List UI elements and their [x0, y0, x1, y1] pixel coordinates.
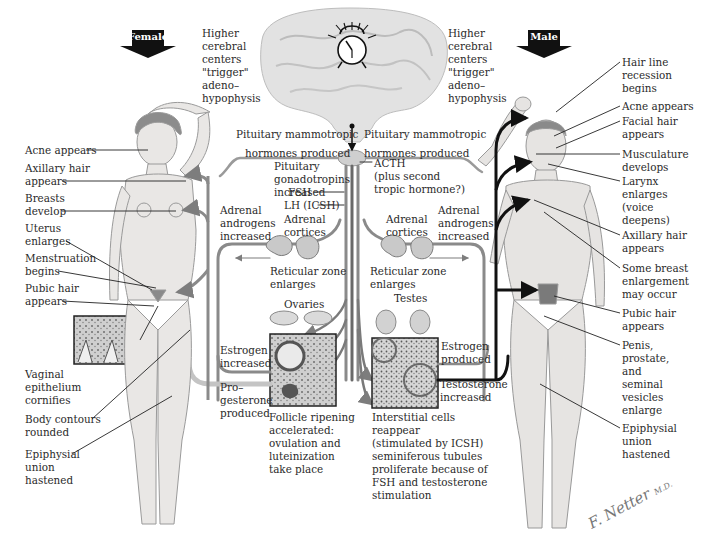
label-line: Pubic hair [622, 307, 676, 320]
label-line: Pro– [220, 381, 273, 394]
label-line: ACTH [374, 157, 465, 170]
label-line: appears [622, 128, 678, 141]
label-line: cortices [386, 226, 428, 239]
mammotropic-left-label: Pituitary mammotropic hormones produced [236, 125, 358, 163]
male-label-larynx: Larynx enlarges (voice deepens) [622, 175, 670, 227]
label-line: develop [25, 205, 66, 218]
adrenal-androgens-left-label: Adrenal androgens increased [220, 204, 276, 243]
label-line: produced [441, 353, 491, 366]
label-line: luteinization [269, 450, 355, 463]
puberty-diagram: Female Male Higher cerebral centers "tri… [0, 0, 702, 548]
label-line: (stimulated by ICSH) [372, 437, 488, 450]
label-line: Adrenal [284, 213, 326, 226]
label-line: hypophysis [448, 92, 507, 105]
testes-label: Testes [394, 292, 427, 305]
label-line: centers [202, 53, 261, 66]
adrenal-androgens-right-label: Adrenal androgens increased [438, 204, 494, 243]
label-line: hastened [622, 448, 677, 461]
label-line: centers [448, 53, 507, 66]
male-label-acne: Acne appears [622, 100, 694, 113]
label-line: Larynx [622, 175, 670, 188]
label-line: stimulation [372, 489, 488, 502]
interstitial-cells-label: Interstitial cells reappear (stimulated … [372, 411, 488, 502]
cerebral-centers-left-label: Higher cerebral centers "trigger" adeno–… [202, 27, 261, 105]
male-label-musculature: Musculature develops [622, 148, 689, 174]
male-banner: Male [516, 30, 572, 60]
label-line: Axillary hair [622, 229, 687, 242]
female-figure [110, 102, 211, 524]
acth-label: ACTH (plus second tropic hormone?) [374, 157, 465, 196]
estrogen-produced-label: Estrogen produced [441, 340, 491, 366]
label-line: Body contours [25, 413, 101, 426]
label-line: develops [622, 161, 689, 174]
reticular-zone-left-label: Reticular zone enlarges [270, 265, 346, 291]
female-label-vaginal-epithelium: Vaginal epithelium cornifies [25, 368, 81, 407]
label-line: proliferate because of [372, 463, 488, 476]
ovaries-label: Ovaries [284, 298, 324, 311]
label-line: Acne appears [25, 144, 97, 157]
male-label-facial-hair: Facial hair appears [622, 115, 678, 141]
label-line: "trigger" [448, 66, 507, 79]
label-line: adeno– [448, 79, 507, 92]
label-line: cornifies [25, 394, 81, 407]
label-line: enlarges [25, 235, 70, 248]
adrenal-cortices-left-label: Adrenal cortices [284, 213, 326, 239]
label-line: appears [25, 175, 90, 188]
label-line: Epiphysial [622, 422, 677, 435]
female-label-uterus: Uterus enlarges [25, 222, 70, 248]
label-line: Reticular zone [370, 265, 446, 278]
label-line: epithelium [25, 381, 81, 394]
label-line: seminiferous tubules [372, 450, 488, 463]
label-line: Pituitary [274, 160, 350, 173]
label-line: Interstitial cells [372, 411, 488, 424]
label-line: may occur [622, 288, 689, 301]
label-line: Estrogen [441, 340, 491, 353]
lh-label: LH (ICSH) [284, 199, 340, 212]
label-line: enlarges [622, 188, 670, 201]
label-line: Menstruation [25, 252, 96, 265]
label-line: union [25, 461, 80, 474]
label-line: increased [274, 186, 350, 199]
label-line: Vaginal [25, 368, 81, 381]
label-line: adeno– [202, 79, 261, 92]
label-line: Adrenal [438, 204, 494, 217]
male-label-breast-enlargement: Some breast enlargement may occur [622, 262, 689, 301]
estrogen-increased-label: Estrogen increased [220, 344, 271, 370]
label-line: Adrenal [220, 204, 276, 217]
label-line: deepens) [622, 214, 670, 227]
label-line: cortices [284, 226, 326, 239]
label-line: increased [220, 230, 276, 243]
label-line: vesicles [622, 391, 669, 404]
label-line: begins [25, 265, 96, 278]
label-line: enlarges [270, 278, 346, 291]
label-line: gesterone [220, 394, 273, 407]
male-label-pubic-hair: Pubic hair appears [622, 307, 676, 333]
label-line: androgens [438, 217, 494, 230]
label-line: produced [220, 407, 273, 420]
label-line: Breasts [25, 192, 66, 205]
female-banner: Female [120, 30, 176, 60]
label-line: begins [622, 82, 672, 95]
female-label-axillary-hair: Axillary hair appears [25, 162, 90, 188]
label-line: Testosterone [440, 378, 508, 391]
label-line: Higher [202, 27, 261, 40]
label-line: accelerated: [269, 424, 355, 437]
gonadotropins-label: Pituitary gonadotropins increased [274, 160, 350, 199]
female-label-pubic-hair: Pubic hair appears [25, 282, 79, 308]
label-line: union [622, 435, 677, 448]
label-line: appears [622, 320, 676, 333]
label-line: enlarges [370, 278, 446, 291]
label-line: seminal [622, 378, 669, 391]
female-label-epiphysial-union: Epiphysial union hastened [25, 448, 80, 487]
label-line: tropic hormone?) [374, 183, 465, 196]
fsh-label: FSH [288, 186, 311, 199]
label-line: increased [438, 230, 494, 243]
label-line: hypophysis [202, 92, 261, 105]
label-line: Follicle ripening [269, 411, 355, 424]
male-label-epiphysial-union: Epiphysial union hastened [622, 422, 677, 461]
label-line: (plus second [374, 170, 465, 183]
ovaries-illustration [270, 311, 332, 325]
label-line: Acne appears [622, 100, 694, 113]
label-line: FSH and testosterone [372, 476, 488, 489]
label-line: Axillary hair [25, 162, 90, 175]
